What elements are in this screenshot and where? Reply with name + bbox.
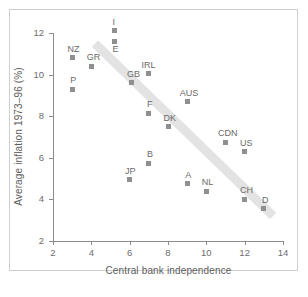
y-tick-mark [49, 199, 53, 200]
y-tick-mark [49, 116, 53, 117]
y-tick-label: 2 [18, 236, 44, 246]
data-point-label: GB [127, 70, 140, 79]
x-tick-mark [53, 241, 54, 245]
data-point-label: CH [240, 186, 253, 195]
data-point-label: CDN [218, 129, 238, 138]
data-point-label: E [113, 45, 119, 54]
data-point-marker[interactable] [127, 177, 132, 182]
data-point-marker[interactable] [223, 140, 228, 145]
x-tick-label: 6 [118, 248, 142, 258]
x-tick-label: 14 [271, 248, 295, 258]
data-point-marker[interactable] [185, 181, 190, 186]
x-tick-mark [283, 241, 284, 245]
data-point-marker[interactable] [166, 124, 171, 129]
data-point-marker[interactable] [146, 161, 151, 166]
x-tick-label: 8 [156, 248, 180, 258]
data-point-marker[interactable] [70, 87, 75, 92]
data-point-marker[interactable] [146, 71, 151, 76]
data-point-marker[interactable] [146, 111, 151, 116]
data-point-marker[interactable] [70, 55, 75, 60]
x-tick-label: 10 [194, 248, 218, 258]
data-point-marker[interactable] [89, 64, 94, 69]
x-axis-label: Central bank independence [53, 265, 284, 276]
x-tick-mark [168, 241, 169, 245]
data-point-label: US [240, 139, 253, 148]
data-point-label: P [70, 76, 76, 85]
y-axis-line [53, 33, 54, 242]
figure-container: 24681012 2468101214 NZPGRIEJPGBBFIRLDKAA… [0, 0, 308, 297]
data-point-label: D [262, 196, 269, 205]
y-tick-mark [49, 75, 53, 76]
data-point-label: B [147, 150, 153, 159]
data-point-label: GR [87, 53, 101, 62]
data-point-label: NL [202, 178, 214, 187]
data-point-label: I [113, 18, 116, 27]
x-tick-mark [130, 241, 131, 245]
x-tick-mark [245, 241, 246, 245]
y-axis-label: Average inflation 1973–96 (%) [13, 37, 24, 237]
data-point-label: F [147, 100, 153, 109]
data-point-label: NZ [68, 45, 80, 54]
data-point-label: DK [163, 114, 176, 123]
data-point-marker[interactable] [242, 197, 247, 202]
data-point-label: A [185, 171, 191, 180]
data-point-marker[interactable] [204, 189, 209, 194]
data-point-marker[interactable] [112, 39, 117, 44]
y-tick-mark [49, 158, 53, 159]
data-point-label: IRL [141, 61, 155, 70]
x-tick-label: 12 [233, 248, 257, 258]
data-point-marker[interactable] [112, 28, 117, 33]
x-tick-label: 2 [41, 248, 65, 258]
scatter-plot: 24681012 2468101214 NZPGRIEJPGBBFIRLDKAA… [0, 0, 308, 297]
data-point-label: AUS [180, 89, 199, 98]
data-point-marker[interactable] [242, 149, 247, 154]
data-point-marker[interactable] [261, 206, 266, 211]
data-point-marker[interactable] [129, 80, 134, 85]
data-point-label: JP [125, 167, 136, 176]
y-tick-mark [49, 33, 53, 34]
x-tick-mark [206, 241, 207, 245]
x-tick-label: 4 [79, 248, 103, 258]
data-point-marker[interactable] [185, 99, 190, 104]
x-tick-mark [91, 241, 92, 245]
